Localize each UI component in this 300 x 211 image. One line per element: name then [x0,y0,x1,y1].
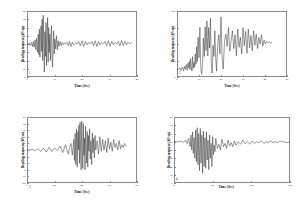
figure-2x2-time-history-plots: 01020304050607080 010203040 Time (Sec) B… [0,0,300,211]
data-trace-line [177,11,287,77]
x-tick-label: 10 [198,78,201,81]
y-tick-label: 80 [170,116,173,119]
x-axis-title: Time (Sec) [218,185,233,189]
data-trace-line [174,117,290,183]
chart-panel-bottom-left: -20-1001020304050607080 020406080 Time (… [0,106,150,211]
panel-number: 3 [29,185,31,189]
x-tick-label: 40 [136,78,139,81]
x-axis-title: Time (Sec) [74,84,89,88]
chart-panel-top-right: 050100150200 01020304050 Time (Sec) Bend… [150,0,300,106]
x-tick-label: 40 [81,184,84,187]
y-tick-label: 0 [24,168,25,171]
x-tick-label: 0 [173,184,174,187]
x-axis-title: Time (Sec) [74,190,89,194]
y-tick-label: 70 [170,124,173,127]
y-tick-label: 70 [23,122,26,125]
y-tick-label: -10 [22,175,26,178]
y-axis-title: Bending moment (kN-m) [167,132,171,168]
y-tick-label: 10 [170,173,173,176]
x-tick-label: 30 [242,78,245,81]
x-tick-label: 50 [211,184,214,187]
x-tick-label: 10 [53,78,56,81]
x-tick-label: 0 [26,184,27,187]
x-tick-label: 100 [249,184,253,187]
y-tick-label: 80 [23,116,26,119]
y-tick-label: 80 [23,10,26,13]
y-tick-label: 10 [23,67,26,70]
x-tick-label: 40 [264,78,267,81]
x-tick-label: 50 [286,78,289,81]
plot-area-top-left: 01020304050607080 010203040 Time (Sec) B… [27,11,137,77]
data-trace-line [27,117,137,183]
plot-area-top-right: 050100150200 01020304050 Time (Sec) Bend… [177,11,287,77]
x-tick-label: 20 [53,184,56,187]
panel-number: 1 [29,71,31,75]
panel-number: 4 [176,177,178,181]
plot-area-bottom-right: 01020304050607080 050100150 Time (Sec) B… [174,117,290,183]
y-tick-label: -20 [22,182,26,185]
x-tick-label: 0 [26,78,27,81]
x-tick-label: 0 [176,78,177,81]
y-tick-label: 200 [171,10,175,13]
x-axis-title: Time (Sec) [224,84,239,88]
x-tick-label: 150 [288,184,292,187]
x-tick-label: 20 [81,78,84,81]
chart-panel-top-left: 01020304050607080 010203040 Time (Sec) B… [0,0,150,106]
y-axis-title: Bending moment (kN-m) [21,26,25,62]
x-tick-label: 80 [136,184,139,187]
chart-panel-bottom-right: 01020304050607080 050100150 Time (Sec) B… [150,106,300,211]
panel-number: 2 [179,71,181,75]
data-trace-line [27,11,137,77]
x-tick-label: 30 [108,78,111,81]
y-axis-title: Bending moment (kN-m) [171,26,175,62]
x-tick-label: 20 [220,78,223,81]
y-axis-title: Bending moment (kN-m) [21,132,25,168]
plot-area-bottom-left: -20-1001020304050607080 020406080 Time (… [27,117,137,183]
y-tick-label: 70 [23,18,26,21]
x-tick-label: 60 [108,184,111,187]
